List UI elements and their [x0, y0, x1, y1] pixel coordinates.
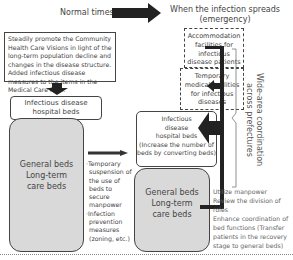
- emergency-label: When the infection spreads (emergency): [160, 5, 290, 25]
- dotted-divider: [0, 254, 293, 255]
- bottom-notes: Utilize manpower Review the division of …: [213, 187, 293, 250]
- down-arrow-icon: [46, 83, 68, 95]
- small-right-arrow-icon: [88, 150, 128, 156]
- wide-area-coordination-label: Wide-area coordination across prefecture…: [244, 50, 264, 190]
- brace-icon: [230, 48, 242, 188]
- middle-notes: ·Temporary suspension of the use of beds…: [86, 160, 134, 243]
- general-beds-normal: General beds Long-term care beds: [9, 118, 84, 252]
- connector-top: [205, 46, 224, 49]
- infectious-beds-normal: Infectious disease hospital beds: [10, 96, 102, 120]
- big-left-arrow-icon: [198, 112, 222, 144]
- left-arrow-icon: [207, 80, 223, 92]
- normal-times-label: Normal times: [60, 8, 114, 17]
- policy-box: Steadily promote the Community Health Ca…: [4, 32, 116, 82]
- general-beds-emergency: General beds Long-term care beds: [134, 168, 210, 252]
- right-arrow-icon: [112, 3, 162, 23]
